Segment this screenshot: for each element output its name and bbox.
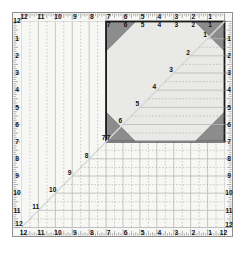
top-scale-number: 6	[124, 13, 128, 20]
left-scale-number: 1	[15, 35, 19, 42]
left-scale-number: 9	[15, 172, 19, 179]
left-scale-number: 11	[14, 207, 21, 214]
left-scale-number: 4	[15, 86, 19, 93]
diagonal-scale-number: 12	[15, 220, 23, 227]
highlight-square-top-number: 7	[107, 21, 111, 28]
right-scale-number: 4	[227, 86, 231, 93]
top-scale-number: 3	[175, 13, 179, 20]
highlight-square-top-number: 2	[191, 21, 195, 28]
ruler-screenshot: 1211109876543211211109876543211212123456…	[0, 0, 245, 258]
square-ruler-graphic: 1211109876543211211109876543211212123456…	[0, 0, 245, 258]
highlight-square-top-number: 1	[208, 21, 212, 28]
bottom-scale-number: 12	[20, 229, 28, 236]
right-scale-number: 3	[227, 69, 231, 76]
left-scale-number: 7	[15, 138, 19, 145]
bottom-scale-number: 8	[90, 229, 94, 236]
bottom-scale-number: 7	[107, 229, 111, 236]
bottom-scale-number: 5	[141, 229, 145, 236]
diagonal-scale-number: 8	[85, 152, 89, 159]
diagonal-scale-number: 7	[102, 134, 106, 141]
bottom-scale-number: 9	[73, 229, 77, 236]
right-scale-number: 1	[227, 35, 231, 42]
top-scale-number: 7	[107, 13, 111, 20]
left-scale-number: 10	[13, 189, 21, 196]
bottom-scale-number: 12	[220, 229, 228, 236]
bottom-scale-number: 4	[158, 229, 162, 236]
right-scale-number: 7	[227, 138, 231, 145]
right-scale-number: 5	[227, 104, 231, 111]
top-scale-number: 12	[20, 13, 28, 20]
left-scale-number: 12	[13, 17, 21, 24]
top-scale-number: 4	[158, 13, 162, 20]
bottom-scale-number: 2	[191, 229, 195, 236]
diagonal-scale-number: 6	[119, 117, 123, 124]
left-scale-number: 6	[15, 121, 19, 128]
left-scale-number: 8	[15, 155, 19, 162]
highlight-square-corner-number: 7	[107, 134, 111, 141]
diagonal-scale-number: 2	[186, 49, 190, 56]
diagonal-scale-number: 4	[152, 83, 156, 90]
top-scale-number: 2	[191, 13, 195, 20]
bottom-scale-number: 10	[54, 229, 62, 236]
diagonal-scale-number: 3	[169, 66, 173, 73]
right-scale-number: 12	[225, 221, 233, 228]
left-scale-number: 5	[15, 104, 19, 111]
highlight-square-top-number: 4	[158, 21, 162, 28]
top-scale-number: 5	[141, 13, 145, 20]
diagonal-scale-number: 1	[203, 31, 207, 38]
highlight-square-top-number: 6	[124, 21, 128, 28]
top-scale-number: 9	[73, 13, 77, 20]
diagonal-scale-number: 11	[32, 203, 39, 210]
diagonal-scale-number: 5	[135, 100, 139, 107]
bottom-scale-number: 6	[124, 229, 128, 236]
diagonal-scale-number: 10	[49, 186, 57, 193]
left-scale-number: 2	[15, 52, 19, 59]
top-scale-number: 10	[54, 13, 62, 20]
right-scale-number: 10	[225, 189, 233, 196]
right-scale-number: 11	[226, 207, 233, 214]
bottom-scale-number: 11	[38, 229, 45, 236]
bottom-scale-number: 3	[175, 229, 179, 236]
top-scale-number: 1	[208, 13, 212, 20]
highlight-square-top-number: 3	[175, 21, 179, 28]
top-scale-number: 11	[38, 13, 45, 20]
bottom-scale-number: 1	[208, 229, 212, 236]
right-scale-number: 6	[227, 121, 231, 128]
right-scale-number: 9	[227, 172, 231, 179]
right-scale-number: 2	[227, 52, 231, 59]
highlight-square-top-number: 5	[141, 21, 145, 28]
left-scale-number: 3	[15, 69, 19, 76]
right-scale-number: 8	[227, 155, 231, 162]
diagonal-scale-number: 9	[68, 169, 72, 176]
top-scale-number: 8	[90, 13, 94, 20]
